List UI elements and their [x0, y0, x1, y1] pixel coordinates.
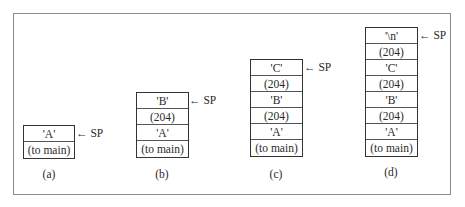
- sp-pointer-d: ← SP: [419, 27, 446, 43]
- sp-pointer-c: ← SP: [304, 59, 331, 75]
- stack-cell: 'A': [137, 125, 188, 141]
- stack-cell: 'A': [366, 124, 417, 140]
- stack-cell: (204): [137, 109, 188, 125]
- stack-cell: 'B': [366, 92, 417, 108]
- stack-a: 'A' (to main): [23, 125, 75, 159]
- stack-cell: (204): [251, 108, 302, 124]
- sp-pointer-b: ← SP: [189, 92, 216, 108]
- caption-d: (d): [365, 166, 417, 178]
- stack-cell: 'A': [24, 126, 74, 142]
- stack-cell: (204): [366, 108, 417, 124]
- stack-cell: 'B': [137, 93, 188, 109]
- stack-cell: (204): [366, 76, 417, 92]
- stack-b: 'B' (204) 'A' (to main): [136, 92, 189, 158]
- stack-cell: (204): [251, 76, 302, 92]
- sp-pointer-a: ← SP: [76, 125, 103, 141]
- stack-cell: 'A': [251, 124, 302, 140]
- stack-cell: '\n': [366, 28, 417, 44]
- stack-cell: 'B': [251, 92, 302, 108]
- caption-a: (a): [23, 168, 75, 180]
- stack-cell: (to main): [24, 142, 74, 158]
- stack-cell: 'C': [251, 60, 302, 76]
- stack-c: 'C' (204) 'B' (204) 'A' (to main): [250, 59, 303, 157]
- stack-d: '\n' (204) 'C' (204) 'B' (204) 'A' (to m…: [365, 27, 418, 157]
- stack-cell: (204): [366, 44, 417, 60]
- stack-cell: (to main): [366, 140, 417, 156]
- caption-b: (b): [136, 168, 188, 180]
- caption-c: (c): [250, 168, 302, 180]
- stack-cell: (to main): [251, 140, 302, 156]
- stack-cell: 'C': [366, 60, 417, 76]
- stack-cell: (to main): [137, 141, 188, 157]
